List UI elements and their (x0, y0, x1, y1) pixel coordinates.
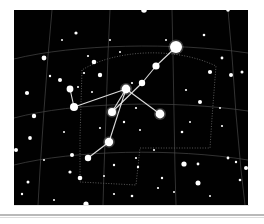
field-star-24 (181, 131, 184, 134)
field-star-14 (241, 71, 244, 74)
field-star-39 (227, 157, 230, 160)
field-star-17 (91, 91, 93, 93)
field-star-8 (49, 75, 51, 77)
field-star-12 (208, 70, 212, 74)
page-horizontal-rule (0, 214, 264, 216)
field-star-37 (181, 161, 186, 166)
star-sadr_upper_3 (108, 108, 116, 116)
field-star-4 (42, 56, 47, 61)
star-gienah_west_1 (70, 103, 78, 111)
field-star-11 (98, 73, 102, 77)
field-star-40 (235, 161, 237, 163)
star-sadr_upper_1 (152, 62, 159, 69)
field-star-7 (221, 57, 224, 60)
field-star-34 (68, 170, 71, 173)
field-star-18 (131, 82, 133, 84)
field-star-55 (61, 39, 63, 41)
field-star-9 (58, 78, 62, 82)
star-deneb (170, 41, 182, 53)
field-star-44 (103, 175, 105, 177)
field-star-42 (27, 181, 30, 184)
field-star-60 (219, 107, 221, 109)
star-sadr (122, 85, 131, 94)
field-star-36 (137, 166, 139, 168)
field-star-49 (113, 193, 115, 195)
field-star-35 (113, 164, 115, 166)
field-star-6 (92, 60, 97, 65)
field-star-16 (77, 86, 79, 88)
field-star-53 (209, 195, 211, 197)
field-star-38 (197, 163, 200, 166)
field-star-21 (32, 114, 36, 118)
field-star-13 (229, 73, 233, 77)
field-star-61 (43, 159, 45, 161)
field-star-45 (161, 177, 163, 179)
field-star-5 (87, 55, 89, 57)
field-star-2 (74, 31, 77, 34)
plate-bottom-edge (14, 205, 249, 206)
field-star-10 (83, 72, 85, 74)
figure-page (0, 0, 264, 224)
star-gienah_west_2 (67, 86, 74, 93)
field-star-51 (157, 187, 159, 189)
field-star-30 (14, 148, 18, 152)
star-eta_cyg (105, 138, 113, 146)
field-star-15 (25, 91, 29, 95)
field-star-41 (244, 166, 248, 170)
field-star-26 (63, 131, 65, 133)
field-star-57 (165, 39, 167, 41)
field-star-3 (203, 34, 206, 37)
field-star-59 (53, 199, 55, 201)
field-star-23 (123, 121, 125, 123)
field-star-31 (70, 153, 74, 157)
star-sadr_upper_2 (139, 80, 145, 86)
field-star-47 (239, 179, 242, 182)
field-star-33 (153, 149, 155, 151)
field-star-27 (99, 127, 101, 129)
field-star-22 (135, 107, 137, 109)
field-star-43 (78, 176, 83, 181)
field-star-58 (189, 121, 191, 123)
star-chart-plate (14, 10, 248, 205)
field-star-25 (28, 136, 32, 140)
field-star-62 (109, 39, 111, 41)
page-horizontal-rule-secondary (0, 217, 264, 218)
field-star-28 (139, 129, 141, 131)
field-star-56 (119, 51, 121, 53)
star-delta_cyg_east (156, 110, 165, 119)
star-chart-svg (14, 10, 248, 205)
field-star-20 (198, 100, 202, 104)
field-star-52 (173, 191, 175, 193)
field-star-32 (135, 157, 137, 159)
field-star-29 (221, 125, 223, 127)
field-star-46 (196, 181, 201, 186)
star-albireo (85, 155, 91, 161)
field-star-50 (131, 195, 134, 198)
field-star-48 (21, 193, 23, 195)
field-star-19 (185, 89, 187, 91)
